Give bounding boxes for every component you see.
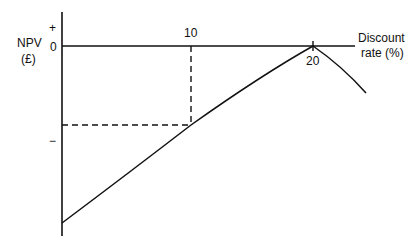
y-tick-zero: 0 bbox=[50, 40, 57, 54]
y-label-line2: (£) bbox=[21, 52, 36, 66]
npv-chart: NPV (£) + 0 − 10 20 Discount rate (%) bbox=[0, 0, 417, 252]
y-tick-minus: − bbox=[49, 134, 56, 148]
npv-curve bbox=[62, 46, 366, 223]
y-label-line1: NPV bbox=[17, 36, 42, 50]
x-label-line2: rate (%) bbox=[361, 46, 404, 60]
y-tick-plus: + bbox=[49, 21, 56, 35]
x-tick-20-label: 20 bbox=[306, 54, 320, 68]
x-label-line1: Discount bbox=[358, 31, 405, 45]
x-tick-10: 10 bbox=[184, 26, 198, 40]
